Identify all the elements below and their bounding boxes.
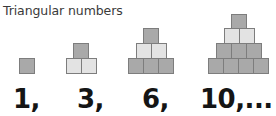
block <box>136 43 152 59</box>
block <box>208 58 224 74</box>
block <box>19 58 35 74</box>
block <box>73 43 89 59</box>
label-3: 3, <box>77 84 104 114</box>
diagram-title: Triangular numbers <box>3 3 123 18</box>
block <box>223 58 239 74</box>
block <box>158 58 174 74</box>
block <box>216 43 232 59</box>
block <box>239 28 255 44</box>
label-6: 6, <box>142 84 169 114</box>
block <box>231 43 247 59</box>
block <box>143 28 159 44</box>
block <box>128 58 144 74</box>
block <box>81 58 97 74</box>
block <box>224 28 240 44</box>
label-10: 10,... <box>200 84 273 114</box>
block <box>238 58 254 74</box>
block <box>143 58 159 74</box>
block <box>253 58 269 74</box>
block <box>246 43 262 59</box>
block <box>66 58 82 74</box>
label-1: 1, <box>13 84 40 114</box>
block <box>151 43 167 59</box>
